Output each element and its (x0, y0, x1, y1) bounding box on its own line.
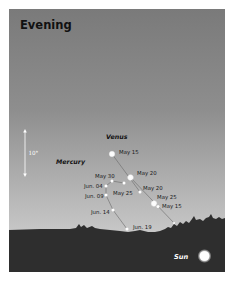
mercury-dot-jun19 (126, 228, 129, 231)
sun-label: Sun (174, 253, 188, 261)
mercury-dot-jun09 (105, 194, 108, 197)
sky-background (9, 9, 225, 234)
mercury-dot-may25 (123, 182, 126, 185)
sun-disc (200, 251, 210, 261)
path-end-dot (173, 222, 175, 224)
mercury-dot-jun04 (105, 185, 108, 188)
chart-title: Evening (20, 18, 72, 32)
venus-dot-may20 (127, 174, 134, 181)
mercury-date-jun14: Jun. 14 (90, 209, 110, 216)
venus-date-may15: May 15 (119, 149, 139, 156)
venus-dot-may25 (150, 200, 157, 207)
mercury-date-jun09: Jun. 09 (84, 193, 104, 200)
mercury-date-may25: May 25 (113, 190, 133, 197)
other-date-may25: May 25 (157, 194, 177, 201)
mercury-label: Mercury (56, 158, 86, 166)
venus-dot-may15 (108, 150, 115, 157)
other-date-may20: May 20 (143, 185, 163, 192)
mercury-dot-may30 (111, 180, 114, 183)
venus-label: Venus (106, 133, 128, 140)
scale-label: 10° (29, 150, 39, 156)
other-dot-may15 (157, 205, 160, 208)
mercury-date-may30: May 30 (95, 173, 115, 180)
venus-date-may20: May 20 (137, 170, 157, 177)
mercury-date-jun04: Jun. 04 (83, 183, 103, 190)
mercury-date-jun19: Jun. 19 (132, 224, 152, 231)
other-date-may15: May 15 (162, 203, 182, 210)
other-dot-may20 (139, 191, 142, 194)
mercury-dot-jun14 (112, 209, 115, 212)
sky-chart: 10° Venus May 15 May 20 Mercury May 25 M… (0, 0, 236, 284)
